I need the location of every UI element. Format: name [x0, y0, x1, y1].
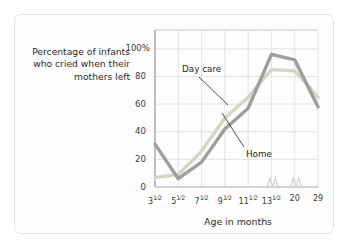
axis-break-marks — [267, 178, 301, 187]
chart-figure: Percentage of infants who cried when the… — [0, 0, 349, 250]
series-lines — [155, 54, 318, 178]
plot-svg — [0, 0, 349, 250]
x-axis-title: Age in months — [158, 216, 318, 227]
series-label-home: Home — [246, 149, 272, 159]
series-label-day-care: Day care — [182, 64, 221, 74]
